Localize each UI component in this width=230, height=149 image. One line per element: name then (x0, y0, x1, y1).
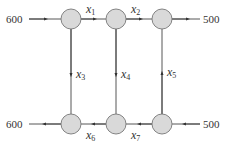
label-out-top-right: 500 (203, 13, 220, 25)
label-x4: x4 (120, 67, 130, 82)
node-bottom-left (61, 114, 81, 134)
label-out-bottom-left: 600 (6, 118, 23, 130)
label-x6: x6 (85, 128, 95, 143)
label-in-top-left: 600 (6, 13, 23, 25)
label-x5: x5 (166, 65, 176, 80)
label-x7: x7 (130, 128, 140, 143)
label-x3: x3 (75, 67, 85, 82)
node-top-right (152, 9, 172, 29)
node-top-middle (106, 9, 126, 29)
label-in-bottom-right: 500 (203, 118, 220, 130)
label-x1: x1 (85, 2, 95, 17)
node-bottom-middle (106, 114, 126, 134)
label-x2: x2 (130, 2, 140, 17)
flow-network-diagram: 600 500 600 500 x1 x2 x3 x4 x5 x6 x7 (0, 0, 230, 149)
node-top-left (61, 9, 81, 29)
node-bottom-right (152, 114, 172, 134)
